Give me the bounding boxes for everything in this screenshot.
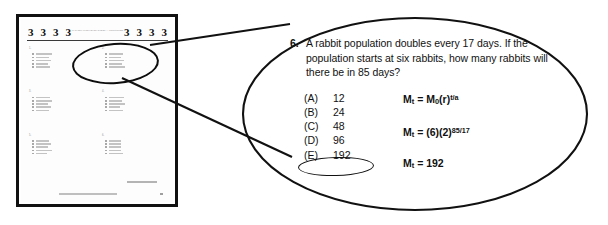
choice-letter: (E) bbox=[304, 148, 333, 162]
formula-result: Mt = 192 bbox=[403, 156, 566, 174]
choice-letter: (D) bbox=[304, 133, 333, 147]
answer-choices-list: (A) 12 (B) 24 (C) 48 (D) 96 (E) 192 bbox=[290, 91, 382, 174]
formula-general: Mt = M0(r)t/a bbox=[403, 91, 566, 110]
choice-value: 96 bbox=[333, 133, 345, 147]
callout-connector-top bbox=[150, 24, 290, 45]
answer-area: (A) 12 (B) 24 (C) 48 (D) 96 (E) 192 bbox=[290, 91, 566, 174]
question-text: A rabbit population doubles every 17 day… bbox=[306, 36, 566, 80]
screenshot-root: 3 3 3 3 MATHEMATICS LEVEL 2 TEST — CONTI… bbox=[0, 0, 608, 225]
choice-value: 12 bbox=[333, 91, 345, 105]
choice-value: 24 bbox=[333, 105, 345, 119]
choice-value: 192 bbox=[333, 148, 351, 162]
choice-value: 48 bbox=[333, 119, 345, 133]
question-number-label: 6. bbox=[290, 36, 306, 51]
choice-letter: (C) bbox=[304, 119, 333, 133]
question-row: 6. A rabbit population doubles every 17 … bbox=[290, 36, 566, 80]
answer-choice-d[interactable]: (D) 96 bbox=[304, 133, 382, 147]
worked-solution-formulas: Mt = M0(r)t/a Mt = (6)(2)85/17 Mt = 192 bbox=[382, 91, 566, 174]
answer-choice-e[interactable]: (E) 192 bbox=[304, 148, 382, 162]
choice-letter: (A) bbox=[304, 91, 333, 105]
answer-choice-c[interactable]: (C) 48 bbox=[304, 119, 382, 133]
answer-choice-b[interactable]: (B) 24 bbox=[304, 105, 382, 119]
callout-connector-bottom bbox=[122, 78, 292, 157]
answer-choice-a[interactable]: (A) 12 bbox=[304, 91, 382, 105]
callout-content: 6. A rabbit population doubles every 17 … bbox=[290, 36, 566, 174]
choice-letter: (B) bbox=[304, 105, 333, 119]
formula-substituted: Mt = (6)(2)85/17 bbox=[403, 124, 566, 143]
